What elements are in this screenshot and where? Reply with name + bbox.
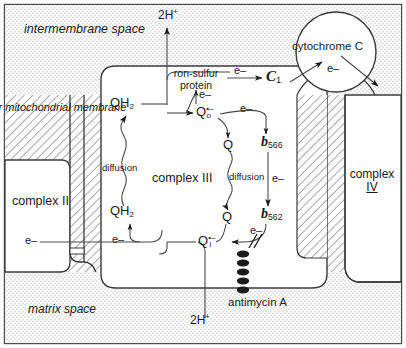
label-complex-ii: complex II (12, 194, 69, 208)
membrane-label-line1: inner mitochondrial membrane (0, 101, 126, 113)
qh2-top-text: QH (110, 95, 130, 110)
label-q-bottom: Q (222, 210, 232, 225)
proton-top-text: 2H (158, 8, 173, 22)
b566-sub: 566 (268, 140, 282, 150)
label-qh2-top: QH2 (110, 96, 134, 111)
label-iron-sulfur-protein: ron-sulfur protein (174, 68, 218, 92)
label-inner-mitochondrial-membrane: inner mitochondrial membrane (0, 101, 126, 113)
label-b566: b566 (261, 134, 282, 151)
label-qi: Q•–i (198, 233, 211, 249)
c1-letter: C (266, 68, 276, 84)
label-proton-top: 2H+ (158, 8, 178, 22)
qh2-bottom-text: QH (110, 203, 130, 218)
complex-ii-text: complex II (12, 194, 69, 208)
iron-sulfur-line1: ron-sulfur (174, 68, 218, 80)
electron-label-into-qh2: e– (112, 233, 124, 245)
proton-top-sup: + (173, 7, 177, 16)
electron-label-into-isp: e– (199, 88, 211, 100)
label-antimycin-a: antimycin A (228, 296, 287, 309)
qh2-top-sub: 2 (130, 102, 134, 111)
qh2-bottom-sub: 2 (130, 210, 134, 219)
proton-bottom-text: 2H (190, 313, 205, 327)
label-qo: Q•–o (196, 104, 211, 120)
electron-label-complex-ii-out: e– (25, 234, 37, 246)
complex-iv-line2: IV (350, 181, 395, 194)
label-cytochrome-c: cytochrome C (292, 40, 363, 53)
label-q-top: Q (223, 138, 233, 153)
electron-label-b566-to-b562: e– (272, 172, 284, 184)
qo-letter: Q (196, 104, 206, 119)
electron-label-qo-to-b566: e– (240, 102, 252, 114)
diagram-canvas: intermembrane space inner mitochondrial … (0, 0, 406, 348)
complex-iv-line1: complex (350, 168, 395, 181)
label-matrix-space: matrix space (28, 303, 96, 316)
cytochrome-c-text: cytochrome C (292, 40, 363, 52)
b562-letter: b (261, 206, 268, 221)
label-complex-iii: complex III (152, 171, 212, 185)
label-diffusion-right: diffusion (229, 172, 264, 183)
label-proton-bottom: 2H+ (190, 313, 210, 327)
c1-sub: 1 (276, 75, 281, 85)
label-diffusion-left: diffusion (102, 163, 137, 174)
electron-label-isp-to-c1: e– (234, 64, 246, 76)
label-qh2-bottom: QH2 (110, 204, 134, 219)
qi-letter: Q (198, 233, 208, 248)
proton-bottom-sup: + (205, 312, 209, 321)
iron-sulfur-line2: protein (174, 80, 218, 92)
complex-iii-text: complex III (152, 171, 212, 185)
qo-sub: o (206, 111, 210, 120)
electron-label-cytc: e– (327, 62, 339, 74)
label-complex-iv: complex IV (350, 168, 395, 195)
b566-letter: b (261, 134, 268, 149)
label-b562: b562 (261, 206, 282, 223)
label-c1: C1 (266, 68, 281, 85)
label-intermembrane-space: intermembrane space (24, 22, 145, 36)
qi-sub: i (209, 240, 211, 249)
b562-sub: 562 (268, 212, 282, 222)
electron-label-b562-to-qi: e– (250, 224, 262, 236)
